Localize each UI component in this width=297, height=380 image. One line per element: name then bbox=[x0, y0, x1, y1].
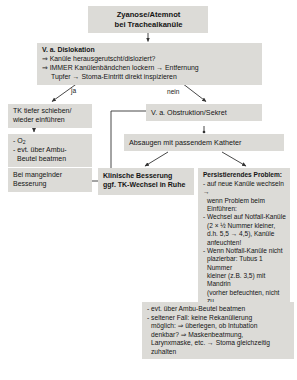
edge-absaugen-to-persistierend bbox=[222, 152, 246, 166]
edge-label-ja: ja bbox=[71, 87, 76, 94]
absaugen-label: Absaugen mit passendem Katheter bbox=[129, 138, 280, 147]
persistierend-line-5: (2 × ½ Nummer kleiner, bbox=[203, 222, 286, 230]
edge-label-nein: nein bbox=[167, 88, 179, 95]
node-ambu-beutel-rekanuelierung: - evt. über Ambu-Beutel beatmen - selten… bbox=[142, 302, 294, 359]
title-line-2: bei Trachealkanüle bbox=[93, 20, 204, 30]
dislokation-line-1: ⇒ Kanüle herausgerutscht/disloziert? bbox=[42, 55, 258, 64]
persistierend-line-10: kleiner (z.B. 3,5) mit Mandrin bbox=[203, 272, 286, 289]
node-title: Zyanose/Atemnot bei Trachealkanüle bbox=[88, 6, 208, 33]
klinische-line-2: ggf. TK-Wechsel in Ruhe bbox=[103, 181, 190, 190]
node-tk-tiefer-schieben: TK tiefer schieben/ wieder einführen bbox=[8, 104, 92, 128]
node-absaugen-katheter: Absaugen mit passendem Katheter bbox=[124, 134, 284, 151]
node-persistierendes-problem: Persistierendes Problem: - auf neue Kanü… bbox=[198, 168, 290, 317]
persistierend-line-3: Einführen: bbox=[203, 205, 286, 213]
o2-subscript: 2 bbox=[23, 139, 26, 145]
o2-label: - O bbox=[13, 137, 23, 144]
mangelnde-line-1: Bei mangelnder bbox=[13, 171, 88, 180]
persistierend-line-9: plazierbar: Tubus 1 Nummer bbox=[203, 255, 286, 272]
persistierend-line-4: - Wechsel auf Notfall-Kanüle bbox=[203, 213, 286, 221]
dislokation-line-2: ⇒ IMMER Kanülenbändchen lockern → Entfer… bbox=[42, 64, 258, 73]
obstruktion-label: V. a. Obstruktion/Sekret bbox=[151, 108, 258, 117]
node-verdacht-dislokation: V. a. Dislokation ⇒ Kanüle herausgerutsc… bbox=[37, 43, 262, 85]
persistierend-line-1: - auf neue Kanüle wechseln → bbox=[203, 180, 286, 197]
persistierend-line-8: - Wenn Notfall-Kanüle nicht bbox=[203, 247, 286, 255]
node-klinische-besserung: Klinische Besserung ggf. TK-Wechsel in R… bbox=[98, 168, 194, 195]
mangelnde-line-2: Besserung bbox=[13, 180, 88, 189]
ambu-line-4: denkbar? ⇒ Maskenbeatmung, bbox=[147, 331, 290, 340]
flowchart-canvas: Zyanose/Atemnot bei Trachealkanüle V. a.… bbox=[0, 0, 297, 380]
o2-line-3: Beutel beatmen bbox=[13, 155, 88, 164]
ambu-line-6: zuhalten bbox=[147, 348, 290, 357]
ambu-line-2: - seltener Fall: keine Rekanülierung bbox=[147, 314, 290, 323]
persistierend-heading: Persistierendes Problem: bbox=[203, 171, 286, 179]
klinische-line-1: Klinische Besserung bbox=[103, 172, 190, 181]
persistierend-line-2: wenn Problem beim bbox=[203, 197, 286, 205]
ambu-line-3: möglich: ⇒ überlegen, ob Intubation bbox=[147, 322, 290, 331]
ambu-line-1: - evt. über Ambu-Beutel beatmen bbox=[147, 305, 290, 314]
o2-line-1: - O2 bbox=[13, 137, 88, 146]
ambu-line-5: Larynxmaske, etc. → Stoma gleichzeitig bbox=[147, 339, 290, 348]
persistierend-line-6: d.h. 5,5 → 4,5), Kanüle bbox=[203, 230, 286, 238]
node-sauerstoff-ambu: - O2 - evt. über Ambu- Beutel beatmen bbox=[8, 134, 92, 167]
node-bei-mangelnder-besserung: Bei mangelnder Besserung bbox=[8, 168, 92, 192]
title-line-1: Zyanose/Atemnot bbox=[93, 10, 204, 20]
dislokation-heading: V. a. Dislokation bbox=[42, 46, 258, 55]
dislokation-line-3: Tupfer → Stoma-Eintritt direkt inspizier… bbox=[42, 73, 258, 82]
edge-absaugen-to-klinische bbox=[145, 152, 168, 166]
o2-line-2: - evt. über Ambu- bbox=[13, 146, 88, 155]
tk-line-2: wieder einführen bbox=[13, 116, 88, 125]
node-verdacht-obstruktion-sekret: V. a. Obstruktion/Sekret bbox=[146, 104, 262, 121]
tk-line-1: TK tiefer schieben/ bbox=[13, 107, 88, 116]
persistierend-line-7: anfeuchten! bbox=[203, 239, 286, 247]
